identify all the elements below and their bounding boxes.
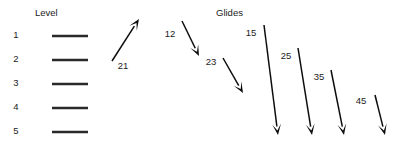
level-number-3: 3 xyxy=(13,77,18,88)
glides-group: 21122315253545 xyxy=(112,19,387,135)
level-number-1: 1 xyxy=(13,29,18,40)
level-column-header: Level xyxy=(35,7,58,18)
glide-label-12: 12 xyxy=(165,28,176,39)
diagram-canvas: LevelGlides 12345 21122315253545 xyxy=(0,0,418,146)
glide-arrow-25: 25 xyxy=(281,48,315,135)
glide-arrowhead-23 xyxy=(234,81,243,93)
glide-shaft-35 xyxy=(331,70,342,127)
levels-group: 12345 xyxy=(13,29,88,136)
glide-arrowhead-21 xyxy=(129,19,139,31)
glide-shaft-15 xyxy=(264,25,277,126)
glide-label-45: 45 xyxy=(356,95,367,106)
level-number-4: 4 xyxy=(13,101,18,112)
glide-label-25: 25 xyxy=(281,50,292,61)
glide-arrow-21: 21 xyxy=(112,19,139,71)
glide-label-23: 23 xyxy=(206,56,217,67)
glide-label-15: 15 xyxy=(246,27,257,38)
level-number-5: 5 xyxy=(13,125,18,136)
glide-shaft-23 xyxy=(223,58,239,86)
glides-column-header: Glides xyxy=(216,7,243,18)
glide-shaft-21 xyxy=(112,26,134,61)
glide-shaft-12 xyxy=(182,21,195,48)
glide-arrow-15: 15 xyxy=(246,25,281,135)
level-number-2: 2 xyxy=(13,53,18,64)
glide-label-21: 21 xyxy=(118,60,129,71)
glide-arrow-35: 35 xyxy=(314,70,346,135)
glide-arrow-12: 12 xyxy=(165,21,199,56)
glide-shaft-45 xyxy=(375,95,383,127)
headers-group: LevelGlides xyxy=(35,7,243,18)
level-glides-figure: LevelGlides 12345 21122315253545 xyxy=(0,0,418,146)
glide-shaft-25 xyxy=(298,48,311,127)
glide-arrow-45: 45 xyxy=(356,95,387,135)
glide-arrow-23: 23 xyxy=(206,56,243,93)
glide-label-35: 35 xyxy=(314,71,325,82)
